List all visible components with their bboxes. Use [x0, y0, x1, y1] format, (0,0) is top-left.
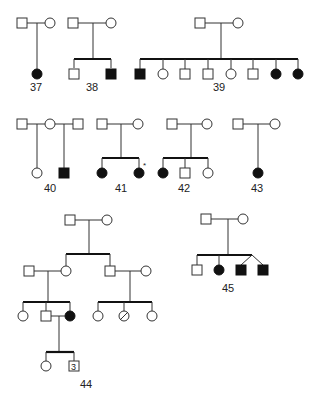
twin-line — [241, 255, 252, 265]
pedigree-label: 44 — [80, 378, 92, 390]
female-symbol — [102, 215, 112, 225]
male-symbol — [68, 18, 78, 28]
pedigree-42: 42 — [158, 119, 213, 194]
male-symbol — [97, 119, 107, 129]
twin-line — [252, 255, 263, 265]
affected-female-symbol — [293, 69, 303, 79]
pedigree-45: 45 — [192, 214, 268, 294]
affected-male-symbol — [106, 69, 116, 79]
male-symbol — [167, 119, 177, 129]
male-symbol — [180, 69, 190, 79]
pedigree-38: 38 — [68, 18, 116, 93]
affected-female-symbol — [65, 311, 75, 321]
male-symbol — [248, 69, 258, 79]
pedigree-label: 40 — [44, 182, 56, 194]
female-symbol — [61, 266, 71, 276]
affected-female-symbol — [253, 168, 263, 178]
affected-male-symbol — [59, 168, 69, 178]
female-symbol — [93, 311, 103, 321]
affected-male-symbol — [135, 69, 145, 79]
affected-female-symbol — [97, 168, 107, 178]
female-symbol — [45, 18, 55, 28]
male-symbol — [41, 311, 51, 321]
pedigree-39: 39 — [135, 18, 303, 93]
female-symbol — [238, 214, 248, 224]
pedigree-40: 40 — [17, 119, 83, 194]
female-symbol — [141, 266, 151, 276]
female-symbol — [18, 311, 28, 321]
female-symbol — [158, 69, 168, 79]
multiple-count: 3 — [71, 362, 76, 372]
pedigree-label: 38 — [86, 81, 98, 93]
pedigree-37: 37 — [17, 18, 55, 93]
male-symbol — [69, 69, 79, 79]
male-symbol — [73, 119, 83, 129]
proband-marker: * — [143, 161, 146, 170]
male-symbol — [17, 119, 27, 129]
pedigree-label: 39 — [213, 81, 225, 93]
pedigree-label: 41 — [115, 182, 127, 194]
pedigree-diagram: 37 38 39 — [0, 0, 320, 404]
female-symbol — [32, 168, 42, 178]
pedigree-44: 3 44 — [18, 215, 157, 390]
pedigree-41: * 41 — [97, 119, 146, 194]
male-symbol — [192, 265, 202, 275]
female-symbol — [226, 69, 236, 79]
affected-female-symbol — [32, 69, 42, 79]
female-symbol — [202, 119, 212, 129]
pedigree-label: 45 — [222, 282, 234, 294]
male-symbol — [65, 215, 75, 225]
affected-female-symbol — [158, 168, 168, 178]
affected-female-symbol — [271, 69, 281, 79]
male-symbol — [203, 69, 213, 79]
male-symbol — [105, 266, 115, 276]
male-symbol — [233, 119, 243, 129]
female-symbol — [106, 18, 116, 28]
male-symbol — [24, 266, 34, 276]
male-symbol — [201, 214, 211, 224]
male-symbol — [17, 18, 27, 28]
pedigree-label: 42 — [178, 182, 190, 194]
male-symbol — [195, 18, 205, 28]
female-symbol — [133, 119, 143, 129]
pedigree-43: 43 — [233, 119, 280, 194]
female-symbol — [41, 361, 51, 371]
female-symbol — [203, 168, 213, 178]
affected-male-twin-symbol — [258, 265, 268, 275]
pedigree-label: 37 — [30, 81, 42, 93]
female-symbol — [147, 311, 157, 321]
female-symbol — [270, 119, 280, 129]
female-symbol — [233, 18, 243, 28]
affected-female-symbol — [214, 265, 224, 275]
affected-male-twin-symbol — [236, 265, 246, 275]
female-symbol — [45, 119, 55, 129]
pedigree-label: 43 — [251, 182, 263, 194]
male-symbol — [180, 168, 190, 178]
